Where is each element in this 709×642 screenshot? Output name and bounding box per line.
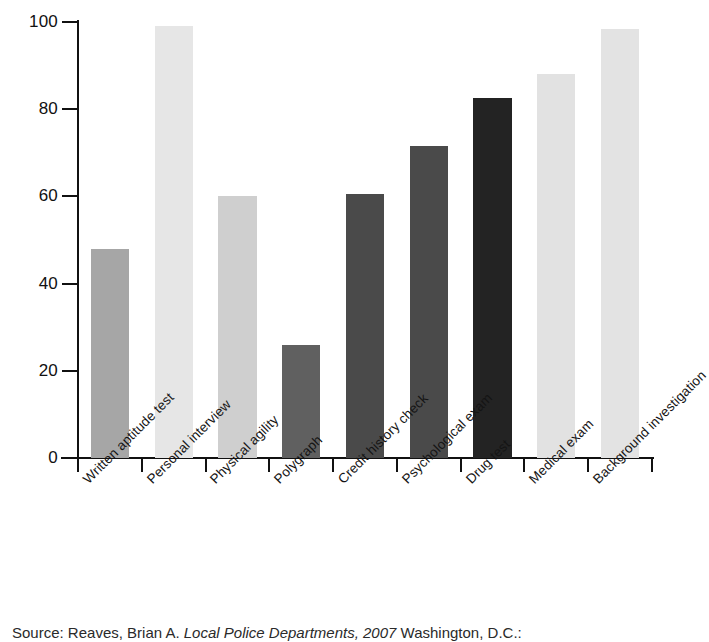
y-axis-tick-label: 80 (0, 100, 58, 117)
y-axis-tick-label-text: 80 (16, 100, 58, 117)
y-axis-tick-label: 40 (0, 275, 58, 292)
y-axis-tick-label: 60 (0, 187, 58, 204)
x-axis-tick (460, 459, 462, 472)
bar (155, 26, 193, 458)
x-axis-tick (587, 459, 589, 472)
y-axis-tick (62, 283, 78, 285)
x-axis-tick (268, 459, 270, 472)
x-axis-tick (77, 459, 79, 472)
source-citation: Source: Reaves, Brian A. Local Police De… (12, 624, 658, 642)
source-prefix: Source: Reaves, Brian A. (12, 624, 184, 641)
y-axis-tick-label-text: 100 (16, 13, 58, 30)
y-axis-tick-label: 100 (0, 13, 58, 30)
y-axis-tick (62, 21, 78, 23)
bar (537, 74, 575, 458)
x-axis-tick (141, 459, 143, 472)
bar (218, 196, 256, 458)
y-axis-tick-label: 20 (0, 362, 58, 379)
x-axis-tick (396, 459, 398, 472)
bar (601, 29, 639, 458)
y-axis-tick-label-text: 40 (16, 275, 58, 292)
x-axis-tick (332, 459, 334, 472)
y-axis-tick-label-text: 60 (16, 187, 58, 204)
y-axis-tick-label-text: 0 (16, 449, 58, 466)
y-axis-tick (62, 370, 78, 372)
x-axis-tick (523, 459, 525, 472)
y-axis-tick (62, 195, 78, 197)
y-axis-tick (62, 108, 78, 110)
y-axis-tick-label: 0 (0, 449, 58, 466)
x-axis-tick (205, 459, 207, 472)
bar (346, 194, 384, 458)
y-axis-tick-label-text: 20 (16, 362, 58, 379)
x-axis-tick (651, 459, 653, 472)
bar (91, 249, 129, 458)
source-title: Local Police Departments, 2007 (184, 624, 397, 641)
source-suffix: Washington, D.C.: (396, 624, 521, 641)
